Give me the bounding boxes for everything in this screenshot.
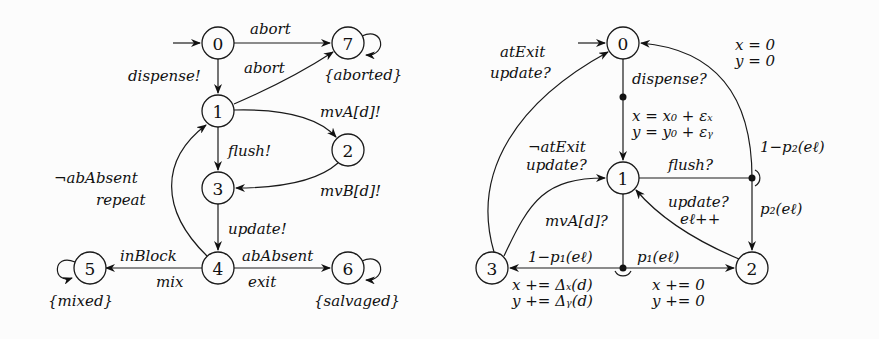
- svg-text:3: 3: [487, 259, 498, 279]
- left-node-2: 2: [332, 134, 364, 166]
- svg-text:6: 6: [343, 259, 354, 279]
- label-1-p1: 1−p₁(eℓ): [528, 248, 593, 266]
- label-not-abAbsent: ¬abAbsent: [54, 169, 139, 187]
- state-label-aborted: {aborted}: [324, 66, 402, 84]
- svg-text:0: 0: [618, 34, 629, 54]
- right-node-0: 0: [607, 27, 639, 59]
- label-mvA: mvA[d]!: [320, 103, 381, 121]
- label-not-atExit-update: update?: [526, 156, 588, 174]
- label-inBlock: inBlock: [120, 247, 177, 265]
- right-automaton: 0 1 2 3 dispense? x = x₀ + εₓ y = y₀ + ε…: [476, 27, 825, 310]
- svg-text:7: 7: [343, 34, 354, 54]
- label-dispense-q: dispense?: [632, 70, 708, 88]
- svg-text:1: 1: [618, 169, 629, 189]
- svg-text:4: 4: [213, 259, 224, 279]
- right-node-2: 2: [736, 252, 768, 284]
- right-node-1: 1: [607, 162, 639, 194]
- svg-text:0: 0: [213, 34, 224, 54]
- self-loop-7: [362, 34, 381, 55]
- label-update-y0: y = y₀ + εᵧ: [631, 123, 713, 141]
- svg-text:2: 2: [343, 141, 354, 161]
- label-upd2-y: y += 0: [651, 292, 705, 310]
- label-el-increment: eℓ++: [680, 210, 720, 228]
- label-atExit-update: update?: [490, 64, 552, 82]
- label-reset-y: y = 0: [734, 52, 776, 70]
- label-1-p2: 1−p₂(eℓ): [760, 138, 825, 156]
- svg-text:2: 2: [747, 259, 758, 279]
- state-label-mixed: {mixed}: [48, 292, 113, 310]
- self-loop-5: [57, 260, 75, 279]
- left-node-4: 4: [202, 252, 234, 284]
- left-node-0: 0: [202, 27, 234, 59]
- self-loop-6: [362, 259, 381, 280]
- svg-text:3: 3: [213, 179, 224, 199]
- label-flush-q: flush?: [667, 156, 714, 174]
- label-update-q: update?: [668, 193, 730, 211]
- label-abort-top: abort: [250, 20, 292, 38]
- svg-text:5: 5: [85, 259, 96, 279]
- svg-text:1: 1: [213, 102, 224, 122]
- left-node-7: 7: [332, 27, 364, 59]
- diagram-canvas: 0 1 2 3 4 5 6 7 abort dispense! abort mv…: [0, 0, 879, 339]
- branch-arc-mv: [615, 271, 631, 276]
- left-node-3: 3: [202, 172, 234, 204]
- label-mix: mix: [156, 273, 184, 291]
- left-automaton: 0 1 2 3 4 5 6 7 abort dispense! abort mv…: [48, 20, 402, 310]
- label-abAbsent: abAbsent: [242, 247, 314, 265]
- left-node-6: 6: [332, 252, 364, 284]
- label-repeat: repeat: [96, 191, 146, 209]
- label-exit: exit: [248, 273, 277, 291]
- label-p1: p₁(eℓ): [637, 248, 680, 266]
- right-node-3: 3: [476, 252, 508, 284]
- label-update: update!: [228, 220, 287, 238]
- label-flush: flush!: [227, 142, 271, 160]
- left-node-1: 1: [202, 95, 234, 127]
- state-label-salvaged: {salvaged}: [314, 292, 400, 310]
- label-mvA-q: mvA[d]?: [545, 212, 609, 230]
- label-atExit: atExit: [500, 43, 546, 61]
- label-not-atExit: ¬atExit: [528, 138, 587, 156]
- branch-arc-flush: [755, 170, 760, 186]
- left-node-5: 5: [74, 252, 106, 284]
- label-upd3-y: y += Δᵧ(d): [511, 292, 593, 310]
- label-abort-mid: abort: [244, 59, 286, 77]
- label-dispense: dispense!: [128, 67, 201, 85]
- label-mvB: mvB[d]!: [320, 182, 381, 200]
- label-p2: p₂(eℓ): [760, 200, 803, 218]
